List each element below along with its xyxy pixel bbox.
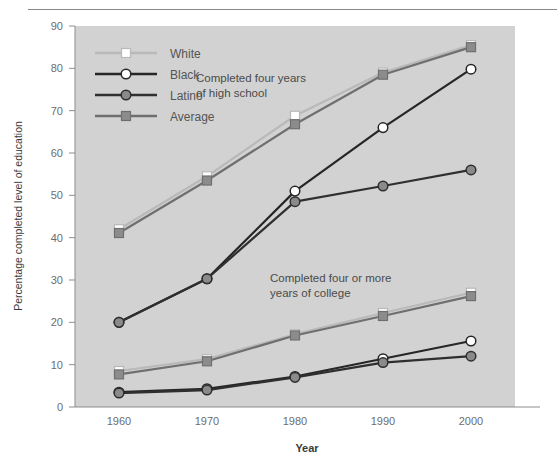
data-point-marker: [121, 69, 131, 79]
education-attainment-line-chart: 0102030405060708090 19601970198019902000…: [0, 0, 557, 462]
y-tick-label: 40: [51, 232, 63, 244]
data-point-marker: [114, 388, 124, 398]
data-point-marker: [115, 370, 124, 379]
data-point-marker: [378, 181, 388, 191]
figure-container: 0102030405060708090 19601970198019902000…: [0, 0, 557, 462]
y-tick-label: 50: [51, 189, 63, 201]
data-point-marker: [291, 120, 300, 129]
data-point-marker: [203, 176, 212, 185]
data-point-marker: [378, 358, 388, 368]
data-point-marker: [202, 385, 212, 395]
y-axis-title: Percentage completed level of education: [12, 121, 24, 311]
legend-label: Average: [170, 110, 215, 124]
data-point-marker: [290, 186, 300, 196]
x-axis-ticks: 19601970198019902000: [107, 415, 483, 427]
data-point-marker: [122, 112, 131, 121]
data-point-marker: [291, 111, 300, 120]
x-tick-label: 1960: [107, 415, 131, 427]
data-point-marker: [290, 373, 300, 383]
x-tick-label: 1970: [195, 415, 219, 427]
annotation-line: Completed four or more: [270, 272, 391, 284]
data-point-marker: [378, 123, 388, 133]
data-point-marker: [467, 43, 476, 52]
data-point-marker: [202, 274, 212, 284]
legend-label: White: [170, 47, 201, 61]
data-point-marker: [114, 318, 124, 328]
data-point-marker: [467, 292, 476, 301]
y-tick-label: 0: [57, 401, 63, 413]
x-axis-title: Year: [295, 442, 319, 454]
data-point-marker: [466, 351, 476, 361]
data-point-marker: [290, 197, 300, 207]
data-point-marker: [466, 336, 476, 346]
data-point-marker: [115, 229, 124, 238]
y-tick-label: 60: [51, 147, 63, 159]
y-tick-label: 10: [51, 359, 63, 371]
data-point-marker: [291, 331, 300, 340]
data-point-marker: [466, 165, 476, 175]
data-point-marker: [203, 357, 212, 366]
y-tick-label: 90: [51, 20, 63, 32]
y-tick-label: 20: [51, 316, 63, 328]
data-point-marker: [379, 311, 388, 320]
x-tick-label: 1980: [283, 415, 307, 427]
y-tick-label: 30: [51, 274, 63, 286]
annotation-line: years of college: [270, 287, 351, 299]
x-tick-label: 1990: [371, 415, 395, 427]
y-axis-ticks: 0102030405060708090: [51, 20, 75, 413]
data-point-marker: [466, 64, 476, 74]
annotation-line: Completed four years: [196, 72, 306, 84]
data-point-marker: [379, 70, 388, 79]
y-tick-label: 80: [51, 62, 63, 74]
y-tick-label: 70: [51, 105, 63, 117]
data-point-marker: [121, 90, 131, 100]
data-point-marker: [122, 49, 131, 58]
x-tick-label: 2000: [459, 415, 483, 427]
annotation-line: of high school: [196, 87, 267, 99]
